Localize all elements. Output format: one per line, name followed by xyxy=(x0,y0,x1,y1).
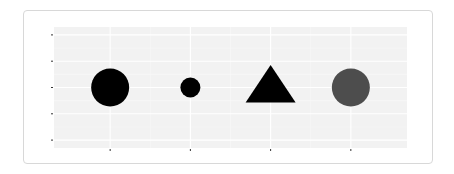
scatter-chart xyxy=(0,0,454,174)
y-axis-ticks xyxy=(51,35,53,140)
black-circle-marker xyxy=(180,78,200,98)
x-axis-ticks xyxy=(110,149,351,151)
gray-circle-marker xyxy=(332,69,370,107)
black-circle-marker xyxy=(91,69,129,107)
